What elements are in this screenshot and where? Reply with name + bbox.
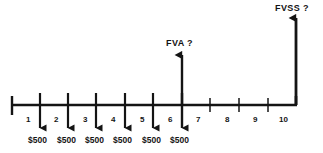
period-label-7: 7 xyxy=(196,116,200,124)
cash-flow-label-4: $500 xyxy=(113,136,132,145)
cash-flow-label-1: $500 xyxy=(28,136,47,145)
period-label-5: 5 xyxy=(140,116,144,124)
cash-flow-label-2: $500 xyxy=(57,136,76,145)
period-label-6: 6 xyxy=(168,116,172,124)
period-label-8: 8 xyxy=(225,116,229,124)
fvss-label: FVSS ? xyxy=(275,4,309,13)
period-label-9: 9 xyxy=(253,116,257,124)
cash-flow-label-5: $500 xyxy=(142,136,161,145)
period-label-4: 4 xyxy=(111,116,115,124)
cash-flow-timeline-diagram: 1 2 3 4 5 6 7 8 9 10 $500 $500 $500 $500… xyxy=(0,0,323,153)
period-label-1: 1 xyxy=(26,116,30,124)
fva-label: FVA ? xyxy=(166,39,193,48)
period-label-10: 10 xyxy=(279,116,288,124)
cash-flow-label-3: $500 xyxy=(85,136,104,145)
period-label-3: 3 xyxy=(83,116,87,124)
timeline-graphic xyxy=(0,0,323,153)
period-label-2: 2 xyxy=(54,116,58,124)
cash-flow-label-6: $500 xyxy=(170,136,189,145)
